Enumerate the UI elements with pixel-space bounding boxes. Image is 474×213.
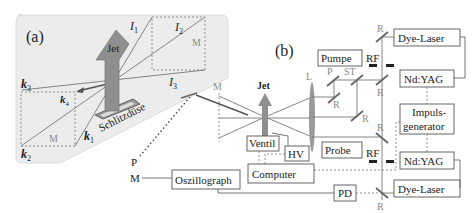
p-label: P [131,156,137,168]
beamsplitter-label: ST [344,66,356,77]
ndyag-top-label: Nd:YAG [404,73,443,85]
polarizer-P [327,76,339,86]
pumpe-label: Pumpe [321,52,352,64]
panel-b-label: (b) [275,42,294,60]
mask-label-lower: M [49,133,58,144]
hv-label: HV [288,148,304,160]
m-label-left: M [130,172,140,184]
jet-arrow-b-icon [258,93,272,140]
r-label-4: R [377,87,384,98]
rf-label-top: RF [366,52,379,64]
signal-beam [196,95,248,115]
pd-label: PD [338,187,352,199]
setup-diagram: Jet (a) Schlitzdüse M M k3 k4 k1 k2 I1 I… [0,0,474,213]
mask-label-b: M [213,81,222,92]
ndyag-bottom-label: Nd:YAG [404,155,443,167]
jet-label-a: Jet [107,42,119,54]
panel-a: Jet (a) Schlitzdüse M M k3 k4 k1 k2 I1 I… [16,15,228,163]
r-label-2: R [362,113,369,124]
r-label-1: R [333,99,340,110]
r-label-3: R [377,23,384,34]
computer-label: Computer [252,168,296,180]
impulsgenerator-line2: generator [403,120,445,132]
oszillograph-label: Oszillograph [175,174,232,186]
rf-filter-top-right [386,64,394,67]
r-label-5: R [377,122,384,133]
r-label-6: R [377,201,384,212]
ventil-label: Ventil [249,137,275,149]
jet-label-b: Jet [257,80,270,91]
dye-laser-bottom-label: Dye-Laser [398,183,445,195]
oszillograph-pd-link [218,189,334,193]
rf-filter-top-left [369,64,377,67]
rf-label-bottom: RF [366,147,379,159]
dye-laser-top-label: Dye-Laser [398,32,445,44]
polarizer-label: P [327,66,333,77]
computer-hv-link [265,154,285,164]
impulsgenerator-line1: Impuls- [412,106,447,118]
probe-label: Probe [325,144,351,156]
beam-b3 [219,117,265,138]
beam-b5 [265,117,312,137]
rf-filter-bottom-left [369,160,377,163]
lens-label: L [306,71,312,82]
beam-b4 [265,97,312,117]
mask-label-upper: M [192,37,201,48]
rf-filter-bottom-right [386,160,394,163]
panel-a-label: (a) [26,28,44,46]
